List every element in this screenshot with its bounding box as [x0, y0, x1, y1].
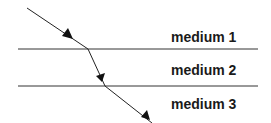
light-ray	[27, 8, 152, 123]
medium-3-label: medium 3	[171, 97, 236, 111]
arrow-icon-medium-1	[62, 28, 73, 39]
medium-1-label: medium 1	[171, 30, 236, 44]
arrow-icon-medium-2	[96, 73, 105, 82]
medium-2-label: medium 2	[171, 63, 236, 77]
